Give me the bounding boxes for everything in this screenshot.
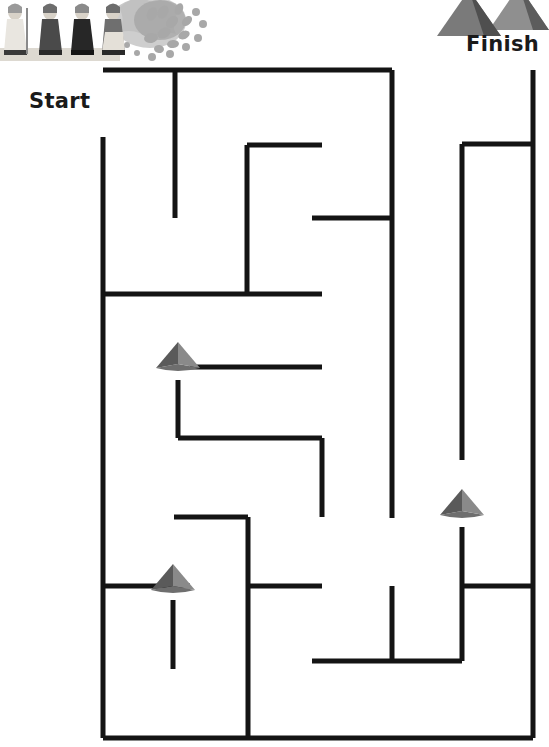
maze-page: Start Finish (0, 0, 549, 747)
pyramid-marker-right (440, 489, 484, 518)
pyramid-marker-lower (151, 564, 195, 593)
pyramid-marker-upper (156, 342, 200, 371)
finish-label: Finish (466, 32, 539, 56)
start-label: Start (29, 89, 90, 113)
wall-group (103, 70, 533, 738)
pyramid-marker-group (151, 342, 484, 593)
